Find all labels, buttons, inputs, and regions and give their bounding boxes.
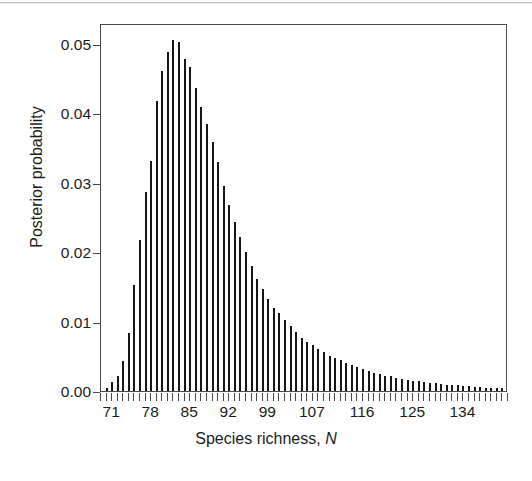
x-axis-tick (468, 393, 469, 401)
bar (295, 332, 297, 391)
bar (490, 388, 492, 391)
bar (435, 383, 437, 391)
bar (412, 381, 414, 391)
x-axis-title: Species richness, N (0, 430, 532, 448)
x-axis-tick (178, 393, 179, 401)
bar (457, 385, 459, 391)
bar (485, 388, 487, 391)
x-axis-tick (161, 393, 162, 401)
x-axis-tick (390, 393, 391, 401)
bar (356, 367, 358, 391)
x-axis-tick (384, 393, 385, 401)
x-axis-tick-label: 125 (390, 404, 434, 420)
y-axis-tick (93, 392, 100, 393)
bar (172, 40, 174, 391)
bar (284, 320, 286, 391)
x-axis-tick-label: 116 (340, 404, 384, 420)
bar (200, 107, 202, 391)
x-axis-tick (150, 393, 151, 401)
x-axis-tick (301, 393, 302, 401)
x-axis-tick (474, 393, 475, 401)
x-axis-tick (234, 393, 235, 401)
bar (156, 101, 158, 391)
y-axis-tick-label: 0.01 (43, 315, 91, 331)
x-axis-tick (139, 393, 140, 401)
bar (256, 279, 258, 391)
bar (440, 384, 442, 391)
y-axis-tick-label: 0.04 (43, 106, 91, 122)
bar (301, 338, 303, 391)
x-axis-tick (423, 393, 424, 401)
x-axis-tick (245, 393, 246, 401)
bar (234, 222, 236, 391)
x-axis-tick (273, 393, 274, 401)
bar (178, 42, 180, 391)
x-axis-tick (267, 393, 268, 401)
scan-artifact-band (0, 2, 532, 4)
x-axis-tick (451, 393, 452, 401)
bar (128, 333, 130, 391)
x-axis-tick (239, 393, 240, 401)
bar (161, 71, 163, 391)
x-axis-tick (446, 393, 447, 401)
x-axis-tick (356, 393, 357, 401)
bar (451, 385, 453, 391)
bar (373, 373, 375, 391)
x-axis-tick-label: 134 (440, 404, 484, 420)
x-axis-tick (122, 393, 123, 401)
y-axis-tick (93, 323, 100, 324)
y-axis-tick (93, 45, 100, 46)
y-axis-tick-label: 0.02 (43, 245, 91, 261)
x-axis-tick (200, 393, 201, 401)
bar (117, 376, 119, 391)
x-axis-tick (128, 393, 129, 401)
x-axis-tick (106, 393, 107, 401)
x-axis-tick-label: 107 (290, 404, 334, 420)
x-axis-tick (100, 393, 101, 401)
y-axis-tick-label: 0.00 (43, 384, 91, 400)
bar (212, 142, 214, 391)
y-axis-tick-label: 0.03 (43, 176, 91, 192)
x-axis-tick (323, 393, 324, 401)
x-axis-tick (329, 393, 330, 401)
x-axis-tick (401, 393, 402, 401)
bar (167, 52, 169, 391)
x-axis-tick-label: 99 (245, 404, 289, 420)
x-axis-tick (189, 393, 190, 401)
x-axis-tick (362, 393, 363, 401)
bar (329, 356, 331, 391)
x-axis-tick (133, 393, 134, 401)
x-axis-tick (167, 393, 168, 401)
x-axis-tick-label: 92 (206, 404, 250, 420)
x-axis-tick (184, 393, 185, 401)
bar (245, 252, 247, 391)
x-axis-tick (223, 393, 224, 401)
bar (122, 361, 124, 391)
bar (223, 186, 225, 391)
bar (306, 342, 308, 391)
x-axis-tick (295, 393, 296, 401)
x-axis-tick (351, 393, 352, 401)
x-axis-tick (212, 393, 213, 401)
x-axis-tick-label: 85 (167, 404, 211, 420)
bar (496, 388, 498, 391)
x-axis-tick (334, 393, 335, 401)
bar (368, 371, 370, 391)
y-axis-tick (93, 114, 100, 115)
x-axis-tick (284, 393, 285, 401)
bar (474, 387, 476, 391)
x-axis-tick (156, 393, 157, 401)
y-axis-tick-label: 0.05 (43, 37, 91, 53)
x-axis-tick (340, 393, 341, 401)
x-axis-tick (379, 393, 380, 401)
x-axis-tick (262, 393, 263, 401)
bar-series (101, 25, 506, 391)
x-axis-title-text: Species richness, (195, 430, 325, 447)
x-axis-tick (435, 393, 436, 401)
x-axis-tick (278, 393, 279, 401)
x-axis-title-variable: N (325, 430, 337, 447)
bar (362, 369, 364, 391)
bar (418, 381, 420, 391)
x-axis-tick (195, 393, 196, 401)
x-axis-tick (290, 393, 291, 401)
